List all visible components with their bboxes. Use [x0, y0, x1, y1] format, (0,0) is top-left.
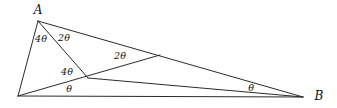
angle-label-theta-at-C: θ [66, 84, 72, 94]
angle-label-4theta-at-A-left: 4θ [35, 34, 47, 44]
vertex-label-A: A [34, 4, 43, 16]
angle-label-theta-at-B: θ [248, 83, 254, 93]
geometry-figure: A B 4θ 2θ 4θ 2θ θ θ [0, 0, 337, 108]
angle-label-4theta-at-D: 4θ [61, 67, 73, 77]
side-CB [18, 96, 303, 97]
angle-label-2theta-at-E: 2θ [114, 51, 126, 61]
cevian-CD-extended [18, 55, 160, 96]
vertex-label-B: B [315, 90, 324, 102]
geometry-canvas [0, 0, 337, 108]
side-AC [18, 21, 38, 96]
angle-label-2theta-at-A-right: 2θ [58, 33, 70, 43]
